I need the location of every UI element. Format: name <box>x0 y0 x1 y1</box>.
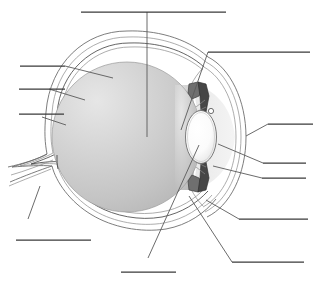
eye-cross-section-svg <box>0 0 321 285</box>
leader-callout-right-1 <box>246 124 268 136</box>
vitreous-body <box>52 62 202 212</box>
optic-nerve-fiber-2 <box>9 169 51 186</box>
lens-group <box>186 111 217 164</box>
leader-callout-right-4 <box>206 200 239 219</box>
optic-nerve-group <box>8 154 58 186</box>
lens <box>186 111 217 164</box>
leader-callout-bottom-left <box>28 186 40 219</box>
canal-of-schlemm <box>208 108 213 113</box>
eye-diagram-figure <box>0 0 321 285</box>
